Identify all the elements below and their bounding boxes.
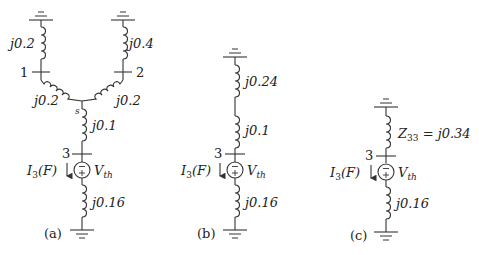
ground-symbol bbox=[374, 232, 398, 240]
reactance-label: j0.2 bbox=[113, 93, 141, 108]
voltage-source-icon bbox=[227, 162, 243, 178]
inductor-icon bbox=[41, 27, 46, 59]
panel-b: j0.24 j0.1 3 I3(F) Vth j0.16 (b) bbox=[180, 49, 278, 241]
source-label: Vth bbox=[247, 163, 266, 180]
inductor-icon bbox=[82, 109, 87, 141]
ground-symbol bbox=[29, 12, 53, 20]
reactance-label: j0.1 bbox=[89, 118, 117, 133]
thevenin-impedance-label: Z33 = j0.34 bbox=[397, 126, 471, 143]
inductor-icon bbox=[235, 116, 240, 148]
bus-label: 1 bbox=[20, 65, 28, 80]
panel-caption: (a) bbox=[44, 226, 62, 241]
source-label: Vth bbox=[398, 165, 417, 182]
panel-a: j0.2 1 j0.4 2 j0.2 j0.2 s j0.1 3 I3(F) V… bbox=[7, 12, 154, 241]
voltage-source-icon bbox=[74, 162, 90, 178]
reactance-label: j0.16 bbox=[242, 195, 278, 210]
reactance-label: j0.4 bbox=[126, 36, 154, 51]
panel-c: Z33 = j0.34 3 I3(F) Vth j0.16 (c) bbox=[329, 99, 471, 243]
ground-symbol bbox=[70, 230, 94, 238]
ground-symbol bbox=[374, 99, 398, 107]
bus-label: 3 bbox=[62, 146, 70, 161]
bus-label: 3 bbox=[365, 148, 373, 163]
node-label: s bbox=[75, 106, 80, 116]
reactance-label: j0.1 bbox=[242, 123, 270, 138]
reactance-label: j0.16 bbox=[393, 196, 429, 211]
voltage-source-icon bbox=[378, 164, 394, 180]
ground-symbol bbox=[223, 230, 247, 238]
panel-caption: (c) bbox=[350, 228, 367, 243]
reactance-label: j0.2 bbox=[31, 93, 59, 108]
inductor-icon bbox=[235, 65, 240, 97]
bus-label: 3 bbox=[214, 146, 222, 161]
reactance-label: j0.16 bbox=[89, 195, 125, 210]
circuit-diagram: j0.2 1 j0.4 2 j0.2 j0.2 s j0.1 3 I3(F) V… bbox=[0, 0, 479, 255]
inductor-icon bbox=[123, 27, 128, 59]
ground-symbol bbox=[223, 49, 247, 57]
inductor-icon bbox=[235, 185, 240, 217]
panel-caption: (b) bbox=[197, 226, 215, 241]
ground-symbol bbox=[111, 12, 135, 20]
bus-label: 2 bbox=[136, 65, 144, 80]
current-label: I3(F) bbox=[180, 163, 211, 180]
current-label: I3(F) bbox=[26, 163, 57, 180]
source-label: Vth bbox=[94, 163, 113, 180]
reactance-label: j0.2 bbox=[7, 36, 35, 51]
current-label: I3(F) bbox=[329, 165, 360, 182]
reactance-label: j0.24 bbox=[242, 74, 278, 89]
inductor-icon bbox=[386, 187, 391, 219]
inductor-icon bbox=[386, 116, 391, 148]
inductor-icon bbox=[82, 185, 87, 217]
